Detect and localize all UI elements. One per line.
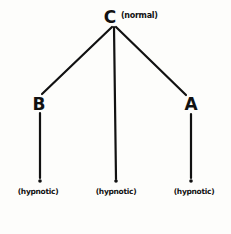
tree-edges [0, 0, 231, 234]
leaf-dot-b [38, 179, 42, 183]
leaf-dot-middle [114, 179, 118, 183]
node-c-note: (normal) [121, 11, 158, 20]
leaf-dot-a [189, 179, 193, 183]
node-a: A [184, 96, 197, 113]
leaf-label-a: (hypnotic) [174, 187, 215, 196]
leaf-label-middle: (hypnotic) [96, 187, 137, 196]
edge-c-middle [114, 27, 116, 179]
node-c: C [104, 9, 116, 26]
node-b: B [33, 96, 46, 113]
edge-c-a [116, 27, 186, 95]
edge-c-b [42, 27, 112, 94]
leaf-label-b: (hypnotic) [18, 187, 59, 196]
